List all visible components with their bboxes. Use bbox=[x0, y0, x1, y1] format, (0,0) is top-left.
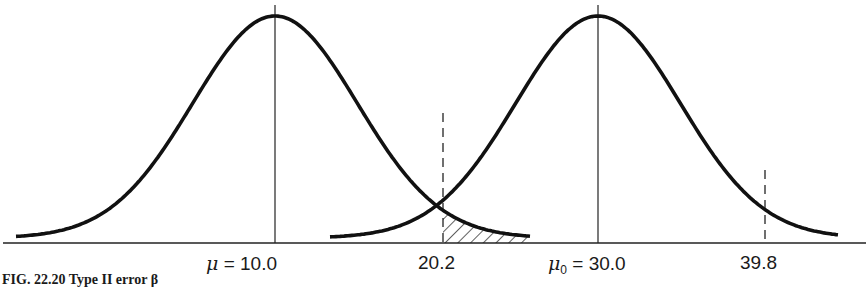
critical-high-value: 39.8 bbox=[740, 252, 777, 273]
mu0-symbol: μ bbox=[548, 252, 560, 274]
tick-label-critical-high: 39.8 bbox=[740, 252, 777, 274]
normal-curve-mu0 bbox=[330, 16, 838, 237]
figure-caption: FIG. 22.20 Type II error β bbox=[2, 272, 158, 288]
mu0-value: = 30.0 bbox=[567, 253, 626, 274]
normal-curve-mu bbox=[16, 16, 530, 236]
mu-value: = 10.0 bbox=[218, 253, 277, 274]
tick-label-mu: μ = 10.0 bbox=[206, 252, 277, 275]
critical-low-value: 20.2 bbox=[418, 252, 455, 273]
mu0-subscript: 0 bbox=[560, 263, 567, 277]
beta-hatched-region bbox=[443, 210, 530, 243]
tick-label-critical-low: 20.2 bbox=[418, 252, 455, 274]
mu-symbol: μ bbox=[206, 252, 218, 274]
tick-label-mu0: μ0 = 30.0 bbox=[548, 252, 626, 275]
